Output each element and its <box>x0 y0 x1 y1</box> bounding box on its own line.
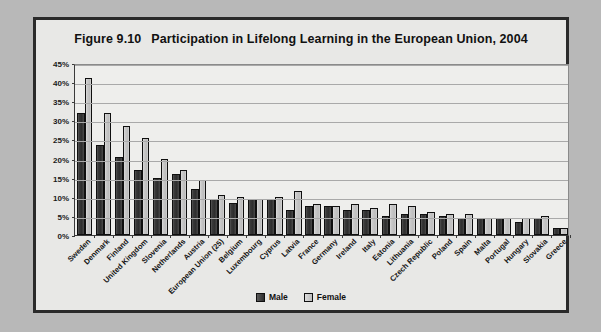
bar-male <box>115 157 123 235</box>
x-axis-label: Spain <box>452 237 473 258</box>
bar-male <box>343 210 351 235</box>
bar-male <box>534 218 542 235</box>
gridline <box>75 65 568 66</box>
chart-legend: Male Female <box>36 292 566 302</box>
bar-female <box>161 159 169 235</box>
chart-plot-wrapper: 0%5%10%15%20%25%30%35%40%45% SwedenDenma… <box>36 20 566 310</box>
bar-female <box>332 206 340 235</box>
bar-female <box>408 206 416 235</box>
bar-male <box>96 145 104 235</box>
legend-swatch-male-icon <box>256 293 265 302</box>
legend-label-male: Male <box>269 292 288 302</box>
bar-female <box>503 218 511 235</box>
gridline <box>75 141 568 142</box>
bar-female <box>256 199 264 235</box>
bar-female <box>218 195 226 235</box>
gridline <box>75 180 568 181</box>
bar-male <box>248 199 256 235</box>
bar-male <box>286 210 294 235</box>
bar-female <box>370 208 378 235</box>
plot-area <box>74 64 569 236</box>
y-axis-tick-label: 35% <box>53 98 69 107</box>
bar-female <box>199 180 207 235</box>
y-axis-tick-label: 30% <box>53 117 69 126</box>
bar-series-container <box>75 65 568 235</box>
x-axis-label: Poland <box>430 237 454 261</box>
gridline <box>75 122 568 123</box>
bar-male <box>77 113 85 235</box>
bar-female <box>351 204 359 235</box>
bar-male <box>324 206 332 235</box>
legend-swatch-female-icon <box>304 293 313 302</box>
y-axis-tick-label: 5% <box>57 212 69 221</box>
bar-male <box>153 178 161 235</box>
legend-item-male: Male <box>256 292 288 302</box>
bar-female <box>484 218 492 235</box>
bar-female <box>427 212 435 235</box>
bar-female <box>275 197 283 235</box>
bar-female <box>85 78 93 235</box>
bar-male <box>496 218 504 235</box>
x-axis-tick-mark <box>570 235 571 238</box>
y-axis-tick-label: 45% <box>53 60 69 69</box>
gridline <box>75 199 568 200</box>
bar-female <box>560 228 568 235</box>
gridline <box>75 84 568 85</box>
y-axis-tick-label: 0% <box>57 232 69 241</box>
bar-male <box>191 189 199 235</box>
y-axis-tick-label: 10% <box>53 193 69 202</box>
y-axis-tick-label: 20% <box>53 155 69 164</box>
bar-female <box>294 191 302 235</box>
bar-female <box>313 204 321 235</box>
bar-male <box>477 218 485 235</box>
bar-male <box>362 210 370 235</box>
bar-male <box>305 206 313 235</box>
y-axis-tick-label: 40% <box>53 79 69 88</box>
gridline <box>75 161 568 162</box>
x-axis-labels: SwedenDenmarkFinlandUnited KingdomSloven… <box>74 237 569 297</box>
y-axis-tick-label: 15% <box>53 174 69 183</box>
bar-male <box>515 222 523 235</box>
figure-panel: Figure 9.10Participation in Lifelong Lea… <box>33 17 569 313</box>
bar-female <box>237 197 245 235</box>
bar-male <box>458 218 466 235</box>
y-axis: 0%5%10%15%20%25%30%35%40%45% <box>36 64 72 236</box>
bar-male <box>267 199 275 235</box>
bar-female <box>104 113 112 235</box>
y-axis-tick-label: 25% <box>53 136 69 145</box>
gridline <box>75 103 568 104</box>
legend-item-female: Female <box>304 292 346 302</box>
bar-male <box>553 228 561 235</box>
bar-female <box>389 204 397 235</box>
x-axis-label: Ireland <box>335 237 359 261</box>
bar-female <box>522 218 530 235</box>
legend-label-female: Female <box>317 292 346 302</box>
bar-female <box>142 138 150 235</box>
bar-male <box>172 174 180 235</box>
bar-male <box>210 199 218 235</box>
gridline <box>75 218 568 219</box>
